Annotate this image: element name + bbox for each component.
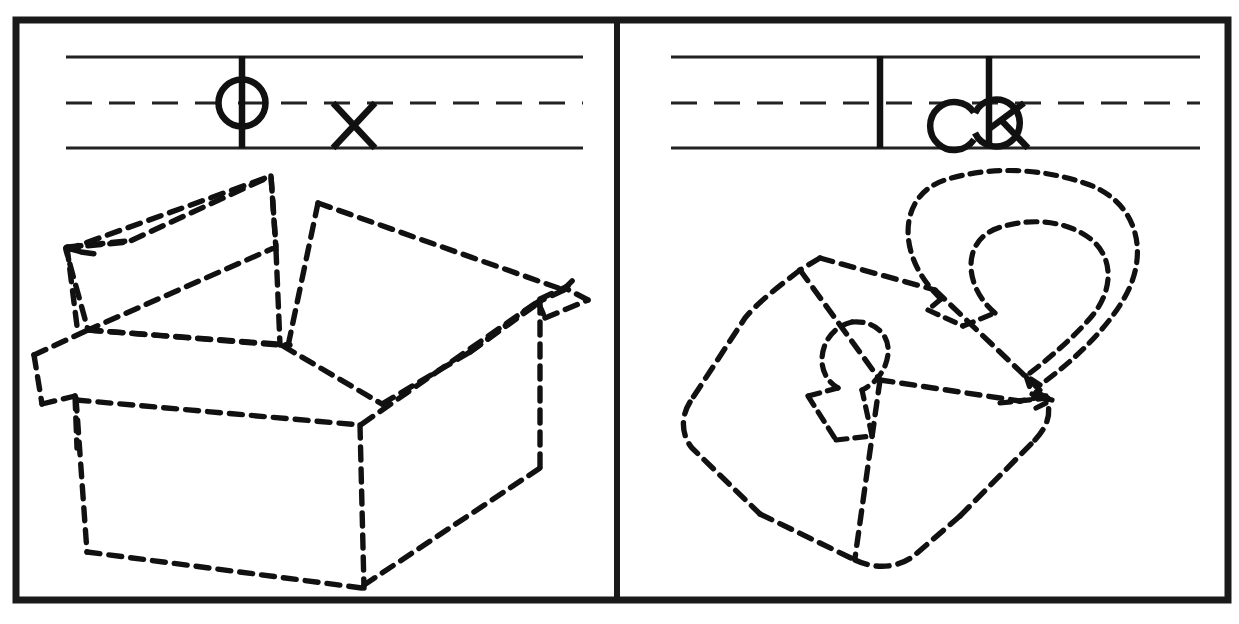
picture-padlock	[683, 171, 1137, 567]
worksheet-page: Trace and write the missing letter box b…	[0, 0, 1239, 624]
handwriting-guide-lines-right	[671, 57, 1200, 148]
